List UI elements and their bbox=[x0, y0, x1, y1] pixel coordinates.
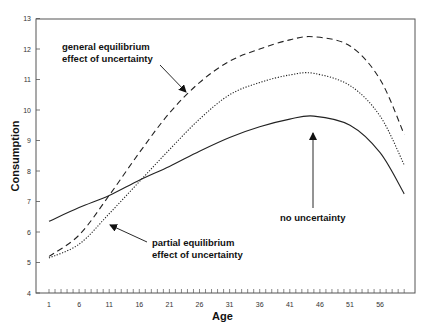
x-tick-label: 6 bbox=[77, 301, 81, 308]
series-lines bbox=[49, 37, 404, 258]
annotation-pe-line1: partial equilibrium bbox=[152, 237, 234, 248]
y-axis-label: Consumption bbox=[9, 120, 21, 191]
x-tick-label: 11 bbox=[106, 301, 113, 308]
x-tick-label: 31 bbox=[226, 301, 234, 308]
x-axis-ticks: 1611162126313641465156 bbox=[47, 289, 404, 308]
annotation-nu-line1: no uncertainty bbox=[280, 212, 346, 223]
x-tick-label: 51 bbox=[346, 301, 354, 308]
y-tick-label: 4 bbox=[27, 290, 31, 297]
x-tick-label: 36 bbox=[256, 301, 264, 308]
y-tick-label: 11 bbox=[24, 76, 31, 83]
annotation-ge-line1: general equilibrium bbox=[62, 41, 150, 52]
annotation-partial-equilibrium: partial equilibrium effect of uncertaint… bbox=[110, 225, 244, 260]
x-tick-label: 1 bbox=[47, 301, 51, 308]
y-tick-label: 5 bbox=[27, 259, 31, 266]
annotation-no-uncertainty: no uncertainty bbox=[280, 133, 346, 223]
arrow-pe bbox=[110, 225, 147, 242]
x-tick-label: 56 bbox=[376, 301, 384, 308]
y-tick-label: 7 bbox=[27, 198, 31, 205]
y-tick-label: 12 bbox=[23, 46, 31, 53]
x-tick-label: 26 bbox=[196, 301, 204, 308]
x-tick-label: 41 bbox=[286, 301, 294, 308]
y-tick-label: 6 bbox=[27, 229, 31, 236]
annotation-pe-line2: effect of uncertainty bbox=[152, 249, 244, 260]
y-tick-label: 8 bbox=[27, 168, 31, 175]
y-axis-ticks: 45678910111213 bbox=[23, 15, 40, 297]
x-axis-label: Age bbox=[212, 310, 233, 322]
annotation-ge-line2: effect of uncertainty bbox=[62, 53, 154, 64]
x-tick-label: 46 bbox=[316, 301, 324, 308]
x-tick-label: 16 bbox=[135, 301, 143, 308]
annotation-general-equilibrium: general equilibrium effect of uncertaint… bbox=[62, 41, 186, 92]
y-tick-label: 13 bbox=[23, 15, 31, 22]
y-tick-label: 9 bbox=[27, 137, 31, 144]
consumption-chart: 45678910111213 1611162126313641465156 Ag… bbox=[0, 0, 431, 335]
series-line-dashed bbox=[49, 37, 404, 257]
series-line-dotted bbox=[49, 73, 404, 258]
arrow-ge bbox=[160, 65, 186, 92]
x-tick-label: 21 bbox=[166, 301, 174, 308]
y-tick-label: 10 bbox=[23, 107, 31, 114]
